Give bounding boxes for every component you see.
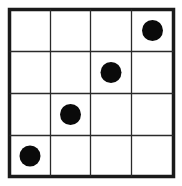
grid-diagram	[0, 0, 182, 186]
dot	[101, 62, 122, 83]
dot	[20, 146, 41, 167]
dot	[60, 104, 81, 125]
dot	[142, 20, 163, 41]
